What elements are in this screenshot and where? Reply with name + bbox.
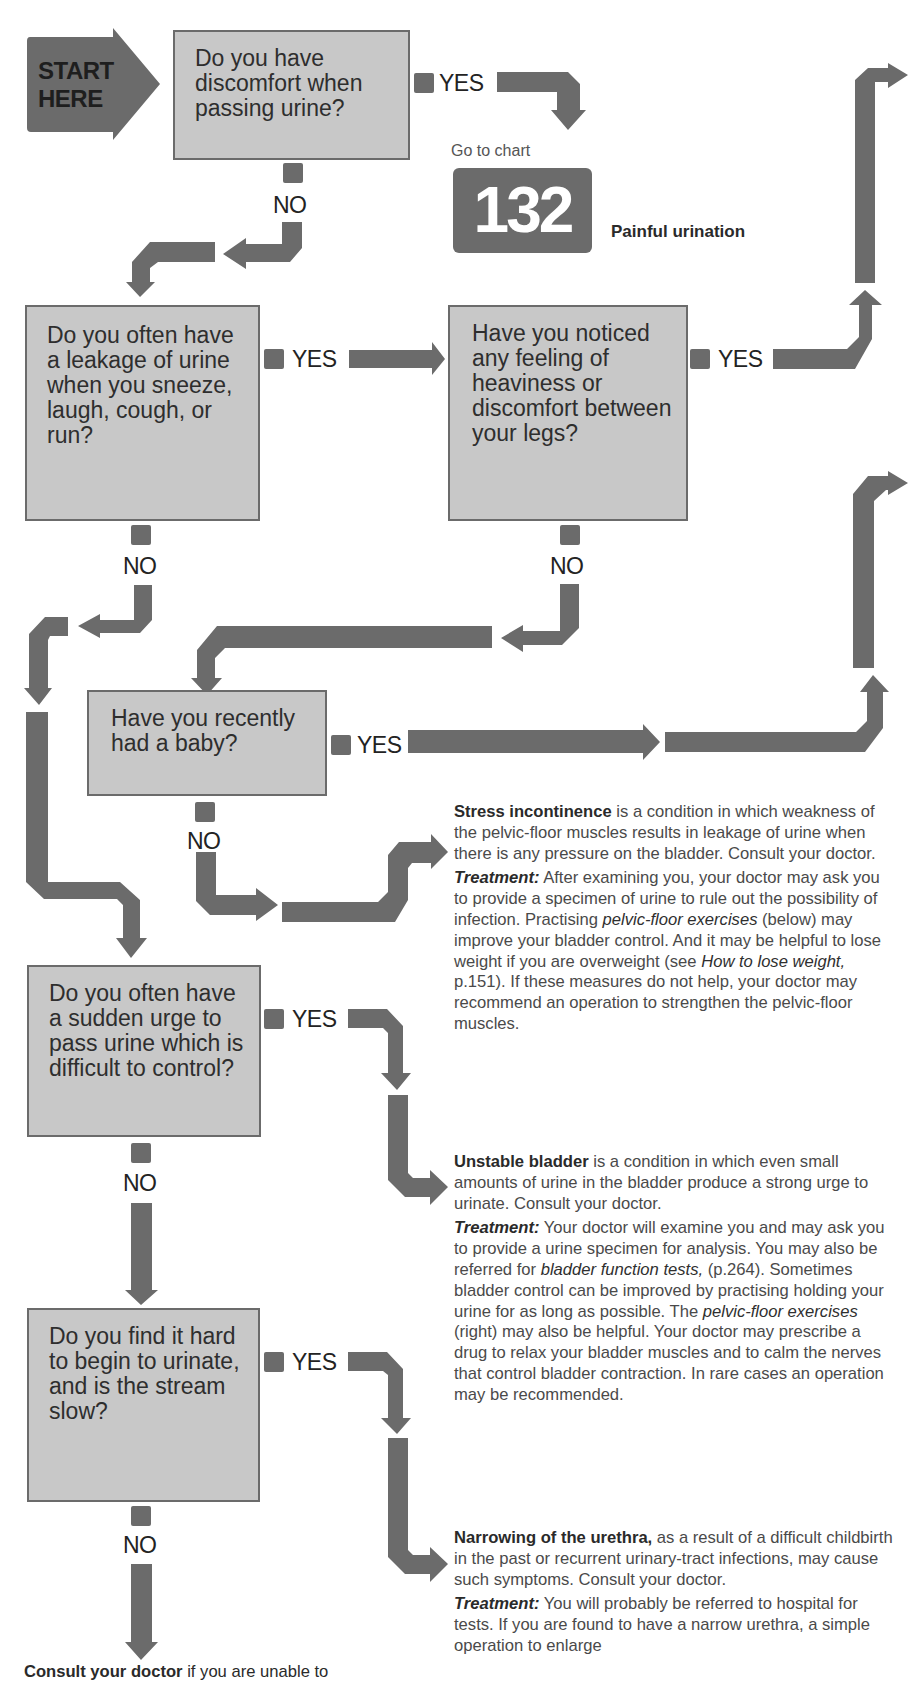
q2-no-arrow2-icon xyxy=(24,617,68,705)
pelvic-floor-exercises-link[interactable]: pelvic-floor exercises xyxy=(703,1302,858,1321)
diagnosis-title: Narrowing of the urethra, xyxy=(454,1528,652,1547)
yes-chip-icon xyxy=(264,1352,284,1372)
question-text: Do you have discomfort when passing urin… xyxy=(195,46,388,121)
q3-no-long-arrow-icon xyxy=(191,626,492,695)
question-text: Do you often have a sudden urge to pass … xyxy=(49,981,253,1081)
treatment-label: Treatment: xyxy=(454,868,539,887)
start-here-label: START HERE xyxy=(38,57,114,113)
treatment-label: Treatment: xyxy=(454,1218,539,1237)
diagnosis-description: Narrowing of the urethra, as a result of… xyxy=(454,1528,894,1590)
no-label: NO xyxy=(123,553,157,580)
bladder-function-tests-link[interactable]: bladder function tests, xyxy=(541,1260,703,1279)
footer-consult-text: Consult your doctor if you are unable to xyxy=(24,1662,328,1682)
yes-chip-icon xyxy=(264,349,284,369)
diagnosis-description: Unstable bladder is a condition in which… xyxy=(454,1152,894,1214)
diagnosis-stress-incontinence: Stress incontinence is a condition in wh… xyxy=(454,802,894,1039)
pelvic-floor-exercises-link[interactable]: pelvic-floor exercises xyxy=(603,910,758,929)
how-to-lose-weight-link[interactable]: How to lose weight, xyxy=(701,952,845,971)
diagnosis-title: Stress incontinence xyxy=(454,802,612,821)
q2-no-arrow-icon xyxy=(78,585,152,638)
diagnosis-description: Stress incontinence is a condition in wh… xyxy=(454,802,894,864)
right-column-arrow-upper-icon xyxy=(855,63,908,283)
footer-rest: if you are unable to xyxy=(183,1662,329,1681)
diagnosis-unstable-bladder: Unstable bladder is a condition in which… xyxy=(454,1152,894,1410)
question-box-baby: Have you recently had a baby? xyxy=(87,690,327,796)
start-line2: HERE xyxy=(38,85,114,113)
q4-yes-arrow2-icon xyxy=(665,675,889,752)
treatment-paragraph: Treatment: You will probably be referred… xyxy=(454,1594,894,1656)
right-column-arrow-lower-icon xyxy=(853,471,908,668)
q3-no-arrow-icon xyxy=(501,584,579,652)
q1-no-arrow2-icon xyxy=(126,242,215,297)
yes-label: YES xyxy=(357,732,402,759)
yes-chip-icon xyxy=(414,73,434,93)
treatment-paragraph: Treatment: After examining you, your doc… xyxy=(454,868,894,1034)
footer-bold: Consult your doctor xyxy=(24,1662,183,1681)
treatment-text: (right) may also be helpful. Your doctor… xyxy=(454,1322,884,1403)
no-label: NO xyxy=(550,553,584,580)
no-chip-icon xyxy=(560,525,580,545)
chart-title-link[interactable]: Painful urination xyxy=(611,222,745,242)
no-chip-icon xyxy=(131,525,151,545)
start-line1: START xyxy=(38,57,114,85)
q6-no-arrow-icon xyxy=(125,1564,158,1660)
q4-no-arrow-icon xyxy=(196,852,278,921)
q6-yes-arrow-icon xyxy=(348,1352,411,1434)
q2-yes-arrow-icon xyxy=(349,342,445,375)
no-chip-icon xyxy=(195,802,215,822)
yes-label: YES xyxy=(718,346,763,373)
q5-yes-arrow2-icon xyxy=(388,1095,448,1205)
chart-number-badge[interactable]: 132 xyxy=(453,168,592,253)
treatment-text: p.151). If these measures do not help, y… xyxy=(454,972,857,1033)
no-label: NO xyxy=(187,828,221,855)
no-label: NO xyxy=(273,192,307,219)
yes-chip-icon xyxy=(264,1009,284,1029)
q5-yes-arrow-icon xyxy=(348,1009,411,1090)
no-chip-icon xyxy=(131,1506,151,1526)
question-box-slow-stream: Do you find it hard to begin to urinate,… xyxy=(27,1308,260,1502)
question-box-leakage: Do you often have a leakage of urine whe… xyxy=(25,305,260,521)
question-box-heaviness: Have you noticed any feeling of heavines… xyxy=(448,305,688,521)
q4-yes-arrow-icon xyxy=(408,724,660,760)
yes-label: YES xyxy=(292,1349,337,1376)
q1-yes-arrow-icon xyxy=(497,72,586,130)
no-label: NO xyxy=(123,1532,157,1559)
yes-label: YES xyxy=(439,70,484,97)
goto-chart-label: Go to chart xyxy=(451,142,530,160)
q6-yes-arrow2-icon xyxy=(388,1438,448,1582)
question-text: Do you often have a leakage of urine whe… xyxy=(47,323,250,448)
question-box-discomfort: Do you have discomfort when passing urin… xyxy=(173,30,410,160)
yes-label: YES xyxy=(292,346,337,373)
q4-no-arrow2-icon xyxy=(282,834,448,922)
treatment-label: Treatment: xyxy=(454,1594,539,1613)
diagnosis-narrowing-urethra: Narrowing of the urethra, as a result of… xyxy=(454,1528,894,1661)
no-label: NO xyxy=(123,1170,157,1197)
q5-no-arrow-icon xyxy=(125,1203,158,1305)
question-text: Have you noticed any feeling of heavines… xyxy=(472,321,674,446)
question-text: Do you find it hard to begin to urinate,… xyxy=(49,1324,252,1424)
yes-chip-icon xyxy=(331,735,351,755)
yes-chip-icon xyxy=(690,349,710,369)
no-chip-icon xyxy=(283,163,303,183)
question-text: Have you recently had a baby? xyxy=(111,706,305,756)
treatment-paragraph: Treatment: Your doctor will examine you … xyxy=(454,1218,894,1405)
q1-no-arrow-icon xyxy=(223,222,302,269)
diagnosis-title: Unstable bladder xyxy=(454,1152,589,1171)
yes-label: YES xyxy=(292,1006,337,1033)
question-box-urge: Do you often have a sudden urge to pass … xyxy=(27,965,261,1137)
no-chip-icon xyxy=(131,1143,151,1163)
q3-yes-arrow-icon xyxy=(773,290,882,369)
